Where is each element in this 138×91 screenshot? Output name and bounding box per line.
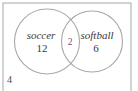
soccer-set-label: soccer <box>27 29 56 41</box>
softball-set-label: softball <box>80 29 113 41</box>
soccer-only-count: 12 <box>37 42 48 54</box>
intersection-count: 2 <box>68 37 73 47</box>
outside-count: 4 <box>7 74 12 85</box>
venn-diagram-canvas: soccer 12 softball 6 2 4 <box>0 0 138 91</box>
venn-diagram-figure: soccer 12 softball 6 2 4 <box>0 0 138 91</box>
softball-only-count: 6 <box>93 42 99 54</box>
